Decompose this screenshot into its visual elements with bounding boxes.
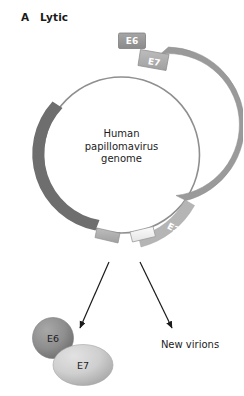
page-title: Lytic <box>40 11 68 23</box>
gene-box-label-e7: E7 <box>147 56 161 68</box>
genome-arc-e2 <box>139 200 195 247</box>
gene-box-label-e6: E6 <box>126 36 138 46</box>
panel-letter: A <box>21 11 29 23</box>
protein-label-e6: E6 <box>47 333 59 344</box>
gene-box-e6: E6 <box>119 33 146 49</box>
hpv-genome-diagram: E2 E6 E7 Human papillomavirus genome <box>0 0 243 396</box>
genome-arc-late-right <box>161 47 244 201</box>
protein-label-e7: E7 <box>77 360 89 371</box>
output-label-new-virions: New virions <box>161 339 219 350</box>
arrow-to-proteins <box>80 262 109 328</box>
protein-e7: E7 <box>53 345 113 386</box>
lytic-cycle-figure: A Lytic <box>0 0 243 396</box>
genome-box-mid <box>95 228 120 243</box>
genome-caption-line3: genome <box>101 153 142 164</box>
genome-caption-line1: Human <box>103 128 139 139</box>
arrow-to-virions <box>140 262 172 328</box>
genome-arc-early-left <box>32 102 99 231</box>
genome-caption-line2: papillomavirus <box>85 141 159 152</box>
